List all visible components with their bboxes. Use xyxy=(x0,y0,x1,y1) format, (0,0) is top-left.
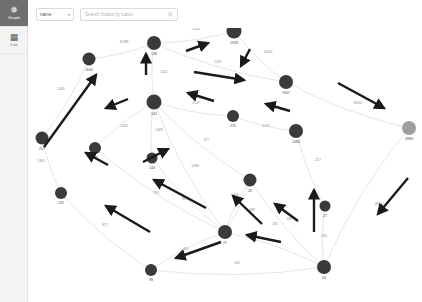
graph-node[interactable] xyxy=(279,75,293,89)
graph-edge[interactable] xyxy=(61,193,151,270)
node-label: 2880 xyxy=(405,137,413,141)
node-label: 257 xyxy=(39,147,45,151)
edge-label: 242 xyxy=(234,261,240,265)
annotation-arrow xyxy=(86,153,108,165)
sidebar-item-graph-label: Graph xyxy=(8,16,20,20)
node-label: 71 xyxy=(223,241,227,245)
graph-edge[interactable] xyxy=(324,128,409,267)
property-select-value: name xyxy=(40,12,52,17)
graph-node[interactable] xyxy=(145,264,157,276)
edge-label: 13007 xyxy=(263,50,272,54)
graph-node[interactable] xyxy=(147,95,162,110)
annotation-arrow xyxy=(44,75,96,147)
search-icon xyxy=(168,12,173,17)
graph-edge[interactable] xyxy=(151,232,225,270)
graph-edge[interactable] xyxy=(234,31,286,82)
edge-label: 691 xyxy=(183,247,189,251)
edge-label: 872 xyxy=(102,223,108,227)
node-label: 27 xyxy=(323,214,327,218)
node-label: 32 xyxy=(248,189,252,193)
edge-label: 248 xyxy=(286,217,292,221)
sidebar-item-list-label: List xyxy=(11,43,18,47)
node-label: 143 xyxy=(149,166,155,170)
chevron-down-icon: ▾ xyxy=(68,12,70,17)
edge-label: 1553 xyxy=(262,124,270,128)
node-label: 215 xyxy=(230,124,236,128)
graph-node[interactable] xyxy=(320,201,331,212)
graph-edge[interactable] xyxy=(154,31,234,43)
graph-edge[interactable] xyxy=(151,267,324,275)
graph-edge[interactable] xyxy=(42,59,89,138)
node-label: 1907 xyxy=(282,91,290,95)
edge-label: 763 xyxy=(153,191,159,195)
sidebar-item-list[interactable]: ▦ List xyxy=(0,27,28,54)
sidebar-item-graph[interactable]: ✵ Graph xyxy=(0,0,28,27)
edge-label: 1409 xyxy=(155,128,163,132)
annotation-arrow xyxy=(241,49,250,66)
list-icon: ▦ xyxy=(10,33,19,42)
node-label: 98 xyxy=(149,278,153,282)
edge-label: 245 xyxy=(272,222,278,226)
graph-node[interactable] xyxy=(83,53,96,66)
graph-edge[interactable] xyxy=(225,232,324,267)
edge-label: 28390 xyxy=(374,202,383,206)
edge-label: 2137 xyxy=(192,101,200,105)
node-label: 1140 xyxy=(85,68,93,72)
edge-label: 217 xyxy=(315,158,321,162)
edge-label: 717 xyxy=(203,138,209,142)
annotation-arrow xyxy=(188,93,214,101)
edge-label: 1420 xyxy=(120,124,128,128)
graph-edge[interactable] xyxy=(152,158,225,232)
graph-node[interactable] xyxy=(317,260,331,274)
graph-edge[interactable] xyxy=(225,180,250,232)
node-label: 1928 xyxy=(230,41,238,45)
search-input[interactable]: Search Nodes by Label xyxy=(80,8,178,21)
edge-label: 2565 xyxy=(57,87,65,91)
toolbar: name ▾ Search Nodes by Label xyxy=(28,0,422,28)
edge-label: 1305 xyxy=(37,159,45,163)
annotation-arrow xyxy=(186,43,208,51)
annotation-arrow xyxy=(106,99,128,108)
edge-label: 1408 xyxy=(191,164,199,168)
edge-label: 1426 xyxy=(192,28,200,31)
graph-edge[interactable] xyxy=(151,102,154,158)
graph-node[interactable] xyxy=(289,124,303,138)
graph-node[interactable] xyxy=(244,174,257,187)
search-placeholder: Search Nodes by Label xyxy=(85,12,133,17)
graph-node[interactable] xyxy=(227,110,239,122)
graph-node[interactable] xyxy=(147,36,161,50)
annotation-arrow xyxy=(233,196,262,224)
graph-node[interactable] xyxy=(218,225,232,239)
graph-node[interactable] xyxy=(227,28,242,39)
edge-label: 240 xyxy=(321,234,327,238)
graph-edge[interactable] xyxy=(95,148,225,232)
graph-node[interactable] xyxy=(89,142,101,154)
graph-node[interactable] xyxy=(55,187,67,199)
annotation-arrow xyxy=(266,104,290,111)
property-select[interactable]: name ▾ xyxy=(36,8,74,21)
left-nav-rail: ✵ Graph ▦ List xyxy=(0,0,28,302)
node-label: 148 xyxy=(151,52,157,56)
graph-explorer-app: ✵ Graph ▦ List name ▾ Search Nodes by La… xyxy=(0,0,422,302)
node-layer: 2571140148192819072880142215108314514313… xyxy=(36,28,417,282)
edge-label: 1475 xyxy=(214,60,222,64)
graph-edge[interactable] xyxy=(225,180,250,232)
edge-label: 28011 xyxy=(354,101,363,105)
node-label: 1083 xyxy=(292,140,300,144)
graph-icon: ✵ xyxy=(10,6,18,15)
graph-edge[interactable] xyxy=(154,102,225,232)
annotation-arrow xyxy=(378,178,408,214)
edge-label: 11398 xyxy=(120,40,129,44)
node-label: 137 xyxy=(58,201,64,205)
graph-node[interactable] xyxy=(402,121,416,135)
annotation-arrow xyxy=(194,72,244,80)
node-label: 24 xyxy=(322,276,326,280)
graph-canvas[interactable]: 2565113981426130071475141221371553280112… xyxy=(28,28,422,302)
annotation-arrow xyxy=(154,180,206,208)
graph-svg[interactable]: 2565113981426130071475141221371553280112… xyxy=(28,28,422,302)
node-label: 142 xyxy=(151,112,157,116)
graph-edge[interactable] xyxy=(296,131,325,206)
graph-edge[interactable] xyxy=(89,43,154,59)
edge-label: 1412 xyxy=(160,70,168,74)
annotation-arrow xyxy=(106,206,150,232)
